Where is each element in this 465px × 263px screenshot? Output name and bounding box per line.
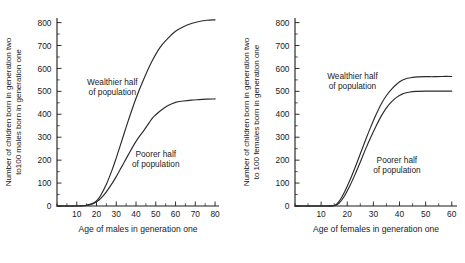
chart-panel-males: 0100200300400500600700800102030405060708… — [0, 0, 232, 263]
page-text-fragment: _____ _____ ___ ____ __ ____ ____ __ ___… — [0, 255, 465, 263]
series-curve-poorer — [295, 91, 452, 206]
svg-text:200: 200 — [276, 155, 290, 165]
series-annotation-wealthier-females: Wealthier half of population — [312, 71, 392, 91]
svg-text:700: 700 — [276, 41, 290, 51]
svg-text:400: 400 — [276, 109, 290, 119]
svg-text:800: 800 — [276, 18, 290, 28]
svg-text:40: 40 — [395, 209, 405, 219]
svg-text:30: 30 — [112, 209, 122, 219]
series-curve-wealthier — [295, 76, 452, 206]
svg-text:600: 600 — [38, 64, 52, 74]
series-curve-wealthier — [57, 20, 215, 206]
svg-text:20: 20 — [343, 209, 353, 219]
x-axis-label-males: Age of males in generation one — [17, 224, 259, 234]
svg-text:300: 300 — [38, 132, 52, 142]
svg-text:700: 700 — [38, 41, 52, 51]
svg-text:600: 600 — [276, 64, 290, 74]
svg-text:20: 20 — [92, 209, 102, 219]
svg-text:400: 400 — [38, 109, 52, 119]
svg-text:0: 0 — [285, 201, 290, 211]
svg-text:70: 70 — [191, 209, 201, 219]
series-annotation-poorer-females: Poorer half of population — [357, 155, 437, 175]
svg-text:800: 800 — [38, 18, 52, 28]
svg-text:500: 500 — [276, 86, 290, 96]
annotation-line1: Poorer half — [116, 149, 196, 159]
svg-text:0: 0 — [47, 201, 52, 211]
annotation-line1: Wealthier half — [312, 71, 392, 81]
svg-text:80: 80 — [210, 209, 220, 219]
svg-text:60: 60 — [171, 209, 181, 219]
annotation-line1: Poorer half — [357, 155, 437, 165]
annotation-line2: of population — [357, 165, 437, 175]
y-axis-label-line2: to 100 females born in generation one — [252, 17, 262, 207]
annotation-line1: Wealthier half — [72, 77, 152, 87]
chart-panel-females: 0100200300400500600700800102030405060 Nu… — [232, 0, 464, 263]
svg-text:10: 10 — [72, 209, 82, 219]
svg-text:300: 300 — [276, 132, 290, 142]
svg-text:100: 100 — [38, 178, 52, 188]
annotation-line2: of population — [312, 81, 392, 91]
svg-text:200: 200 — [38, 155, 52, 165]
y-axis-label-line1: Number of children born in generation tw… — [4, 17, 14, 207]
annotation-line2: of population — [116, 159, 196, 169]
svg-text:100: 100 — [276, 178, 290, 188]
svg-text:60: 60 — [447, 209, 457, 219]
x-axis-label-females: Age of females in generation one — [255, 224, 465, 234]
y-axis-label-line2: to100 males born in generation one — [14, 17, 24, 207]
svg-text:10: 10 — [316, 209, 326, 219]
svg-text:50: 50 — [151, 209, 161, 219]
svg-text:50: 50 — [421, 209, 431, 219]
series-annotation-poorer-males: Poorer half of population — [116, 149, 196, 169]
svg-text:500: 500 — [38, 86, 52, 96]
annotation-line2: of population — [72, 87, 152, 97]
series-annotation-wealthier-males: Wealthier half of population — [72, 77, 152, 97]
svg-text:30: 30 — [369, 209, 379, 219]
figure-two-panel-chart: 0100200300400500600700800102030405060708… — [0, 0, 465, 263]
y-axis-label-males: Number of children born in generation tw… — [4, 17, 25, 207]
y-axis-label-line1: Number of children born in generation tw… — [242, 17, 252, 207]
svg-text:40: 40 — [131, 209, 141, 219]
y-axis-label-females: Number of children born in generation tw… — [242, 17, 263, 207]
